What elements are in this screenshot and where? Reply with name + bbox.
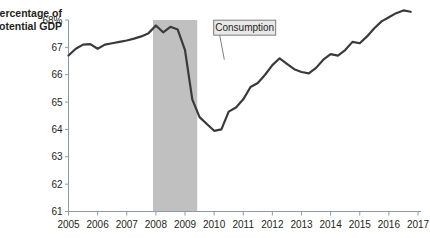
x-axis-ticks: 2005200620072008200920102011201220132014… — [57, 212, 429, 230]
x-tick-label: 2016 — [378, 219, 401, 230]
y-tick-label: 61 — [51, 206, 63, 217]
x-tick-label: 2012 — [261, 219, 284, 230]
x-tick-label: 2008 — [145, 219, 168, 230]
y-tick-label: 62 — [51, 179, 63, 190]
x-tick-label: 2007 — [116, 219, 139, 230]
x-tick-label: 2013 — [290, 219, 313, 230]
x-tick-label: 2006 — [87, 219, 110, 230]
x-tick-label: 2014 — [320, 219, 343, 230]
y-tick-label: 66 — [51, 69, 63, 80]
y-tick-label: 63 — [51, 151, 63, 162]
x-tick-label: 2011 — [232, 219, 254, 230]
y-axis-title-line1: Percentage of — [0, 7, 62, 19]
recession-band — [153, 20, 197, 212]
x-tick-label: 2010 — [203, 219, 226, 230]
line-chart: 6162636465666768% 2005200620072008200920… — [0, 0, 430, 238]
shaded-regions-group — [153, 20, 197, 212]
annotation-consumption: Consumption — [214, 20, 276, 35]
x-tick-label: 2005 — [57, 219, 80, 230]
x-tick-label: 2009 — [174, 219, 197, 230]
plot-area-background — [68, 20, 418, 212]
y-axis-ticks: 6162636465666768% — [42, 15, 68, 218]
x-tick-label: 2015 — [349, 219, 372, 230]
chart-container: 6162636465666768% 2005200620072008200920… — [0, 0, 430, 238]
y-tick-label: 64 — [51, 124, 63, 135]
y-axis-title-line2: potential GDP — [0, 20, 62, 32]
y-tick-label: 67 — [51, 42, 63, 53]
annotation-label: Consumption — [215, 22, 274, 33]
y-tick-label: 65 — [51, 97, 63, 108]
x-tick-label: 2017 — [407, 219, 430, 230]
